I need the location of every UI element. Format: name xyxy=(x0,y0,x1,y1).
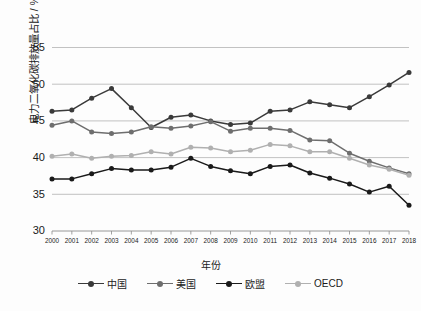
data-point xyxy=(50,154,55,159)
data-point xyxy=(407,203,412,208)
data-point xyxy=(288,128,293,133)
x-tick-2001: 2001 xyxy=(65,237,80,244)
x-axis-tick-labels: 2000200120022003200420052006200720082009… xyxy=(45,237,417,244)
data-point xyxy=(188,113,193,118)
data-point xyxy=(89,129,94,134)
data-point xyxy=(307,171,312,176)
x-tick-2017: 2017 xyxy=(382,237,397,244)
data-point xyxy=(327,149,332,154)
legend-dot-icon xyxy=(295,281,301,287)
data-point xyxy=(188,156,193,161)
data-point xyxy=(149,168,154,173)
data-point xyxy=(69,176,74,181)
data-point xyxy=(367,162,372,167)
x-tick-2003: 2003 xyxy=(104,237,119,244)
data-point xyxy=(367,190,372,195)
data-point xyxy=(347,151,352,156)
data-point xyxy=(288,162,293,167)
legend-item-美国[interactable]: 美国 xyxy=(147,276,196,291)
legend-item-欧盟[interactable]: 欧盟 xyxy=(216,276,265,291)
x-tick-2009: 2009 xyxy=(223,237,238,244)
data-point xyxy=(307,137,312,142)
data-point xyxy=(327,138,332,143)
data-point xyxy=(387,184,392,189)
x-tick-2018: 2018 xyxy=(402,237,417,244)
data-point xyxy=(129,129,134,134)
data-point xyxy=(169,165,174,170)
data-point xyxy=(169,151,174,156)
y-axis-tick-labels: 303540455055 xyxy=(33,41,45,237)
data-point xyxy=(327,176,332,181)
x-tick-2011: 2011 xyxy=(263,237,277,244)
data-point xyxy=(367,94,372,99)
data-point xyxy=(407,70,412,75)
data-point xyxy=(248,121,253,126)
data-point xyxy=(307,99,312,104)
legend-label: 美国 xyxy=(176,276,196,291)
data-point xyxy=(347,182,352,187)
data-point xyxy=(228,149,233,154)
data-point xyxy=(228,129,233,134)
legend-label: 中国 xyxy=(107,276,127,291)
data-point xyxy=(69,151,74,156)
data-point xyxy=(288,143,293,148)
data-point xyxy=(208,164,213,169)
legend-dot-icon xyxy=(88,281,94,287)
series-欧盟 xyxy=(50,156,412,208)
data-series-group xyxy=(50,70,412,208)
data-point xyxy=(268,142,273,147)
series-line-欧盟 xyxy=(52,158,409,205)
legend-swatch-icon xyxy=(147,279,173,289)
data-point xyxy=(109,131,114,136)
data-point xyxy=(149,124,154,129)
series-line-中国 xyxy=(52,72,409,127)
legend-swatch-icon xyxy=(78,279,104,289)
x-tick-2005: 2005 xyxy=(144,237,159,244)
data-point xyxy=(50,123,55,128)
data-point xyxy=(228,168,233,173)
x-tick-2012: 2012 xyxy=(283,237,298,244)
data-point xyxy=(228,122,233,127)
data-point xyxy=(50,176,55,181)
x-tick-2002: 2002 xyxy=(85,237,100,244)
y-tick-50: 50 xyxy=(33,78,45,90)
y-tick-45: 45 xyxy=(33,114,45,126)
x-tick-2014: 2014 xyxy=(323,237,338,244)
x-tick-2010: 2010 xyxy=(243,237,258,244)
data-point xyxy=(89,96,94,101)
x-tick-2004: 2004 xyxy=(124,237,139,244)
legend-swatch-icon xyxy=(285,279,311,289)
data-point xyxy=(109,166,114,171)
data-point xyxy=(208,146,213,151)
data-point xyxy=(248,171,253,176)
x-tick-2007: 2007 xyxy=(184,237,199,244)
data-point xyxy=(129,168,134,173)
data-point xyxy=(407,173,412,178)
x-tick-2006: 2006 xyxy=(164,237,179,244)
data-point xyxy=(69,107,74,112)
data-point xyxy=(248,148,253,153)
gridlines-group xyxy=(52,48,409,232)
data-point xyxy=(268,126,273,131)
data-point xyxy=(109,86,114,91)
chart-figure: 电力二氧化碳排放量占比 / % 303540455055 20002001200… xyxy=(0,0,421,311)
data-point xyxy=(188,145,193,150)
data-point xyxy=(109,154,114,159)
y-tick-40: 40 xyxy=(33,151,45,163)
data-point xyxy=(188,124,193,129)
x-tick-2016: 2016 xyxy=(362,237,377,244)
data-point xyxy=(89,156,94,161)
y-tick-35: 35 xyxy=(33,188,45,200)
legend-item-OECD[interactable]: OECD xyxy=(285,278,343,289)
data-point xyxy=(129,105,134,110)
legend-item-中国[interactable]: 中国 xyxy=(78,276,127,291)
x-tick-2013: 2013 xyxy=(303,237,318,244)
data-point xyxy=(248,126,253,131)
data-point xyxy=(50,109,55,114)
data-point xyxy=(208,119,213,124)
legend-dot-icon xyxy=(157,281,163,287)
data-point xyxy=(169,115,174,120)
legend-dot-icon xyxy=(226,281,232,287)
data-point xyxy=(69,118,74,123)
data-point xyxy=(387,167,392,172)
